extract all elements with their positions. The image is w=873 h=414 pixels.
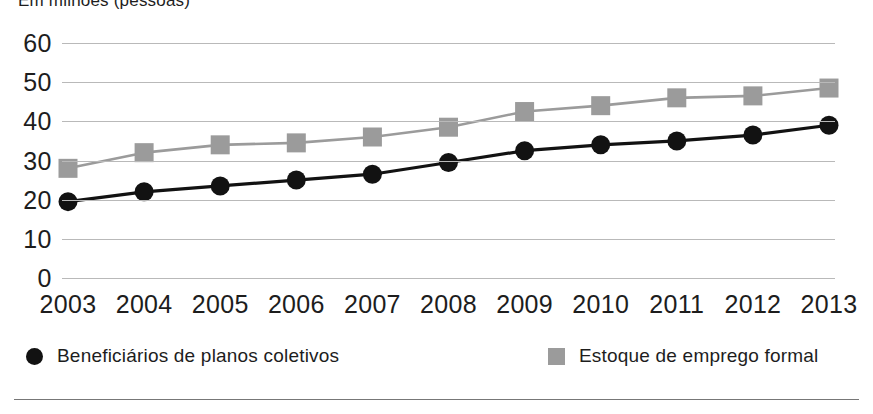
chart-figure: Em milhões (pessoas) 0102030405060 20032…: [0, 0, 873, 414]
data-point-beneficiarios[interactable]: [287, 171, 306, 190]
y-axis: 0102030405060: [0, 43, 52, 278]
gridline: [62, 121, 835, 122]
data-point-beneficiarios[interactable]: [439, 153, 458, 172]
data-point-beneficiarios[interactable]: [59, 192, 78, 211]
gridline: [62, 82, 835, 83]
footer-divider: [14, 399, 859, 400]
plot-area: [62, 43, 835, 278]
y-axis-tick-label: 60: [23, 31, 52, 56]
data-point-beneficiarios[interactable]: [363, 165, 382, 184]
x-axis-tick-label: 2008: [420, 292, 477, 317]
data-point-estoque[interactable]: [667, 88, 686, 107]
data-point-beneficiarios[interactable]: [820, 116, 839, 135]
data-point-estoque[interactable]: [135, 143, 154, 162]
y-axis-tick-label: 50: [23, 70, 52, 95]
circle-marker-icon: [26, 348, 43, 365]
x-axis-tick-label: 2004: [116, 292, 173, 317]
x-axis-tick-label: 2010: [572, 292, 629, 317]
chart-title: Em milhões (pessoas): [18, 0, 190, 11]
data-point-estoque[interactable]: [363, 128, 382, 147]
x-axis-tick-label: 2012: [724, 292, 781, 317]
data-point-estoque[interactable]: [743, 86, 762, 105]
x-axis-tick-label: 2006: [268, 292, 325, 317]
data-point-beneficiarios[interactable]: [211, 176, 230, 195]
data-point-beneficiarios[interactable]: [515, 141, 534, 160]
x-axis: 2003200420052006200720082009201020112012…: [62, 292, 835, 324]
legend-label: Beneficiários de planos coletivos: [57, 345, 339, 367]
data-point-estoque[interactable]: [211, 135, 230, 154]
chart-legend: Beneficiários de planos coletivos Estoqu…: [0, 345, 873, 377]
legend-item-beneficiarios[interactable]: Beneficiários de planos coletivos: [26, 345, 339, 367]
gridline: [62, 200, 835, 201]
square-marker-icon: [548, 348, 565, 365]
data-point-estoque[interactable]: [515, 102, 534, 121]
gridline: [62, 239, 835, 240]
x-axis-tick-label: 2007: [344, 292, 401, 317]
x-axis-tick-label: 2005: [192, 292, 249, 317]
data-point-beneficiarios[interactable]: [591, 135, 610, 154]
data-point-beneficiarios[interactable]: [135, 182, 154, 201]
x-axis-tick-label: 2013: [801, 292, 858, 317]
y-axis-tick-label: 0: [38, 266, 52, 291]
gridline: [62, 278, 835, 279]
x-axis-tick-label: 2003: [40, 292, 97, 317]
legend-item-estoque[interactable]: Estoque de emprego formal: [548, 345, 818, 367]
legend-label: Estoque de emprego formal: [579, 345, 818, 367]
gridline: [62, 43, 835, 44]
data-point-beneficiarios[interactable]: [743, 126, 762, 145]
data-point-beneficiarios[interactable]: [667, 131, 686, 150]
y-axis-tick-label: 30: [23, 148, 52, 173]
data-point-estoque[interactable]: [287, 133, 306, 152]
data-point-estoque[interactable]: [59, 159, 78, 178]
y-axis-tick-label: 10: [23, 226, 52, 251]
data-point-estoque[interactable]: [591, 96, 610, 115]
x-axis-tick-label: 2011: [649, 292, 704, 317]
y-axis-tick-label: 20: [23, 187, 52, 212]
gridline: [62, 161, 835, 162]
y-axis-tick-label: 40: [23, 109, 52, 134]
x-axis-tick-label: 2009: [496, 292, 553, 317]
